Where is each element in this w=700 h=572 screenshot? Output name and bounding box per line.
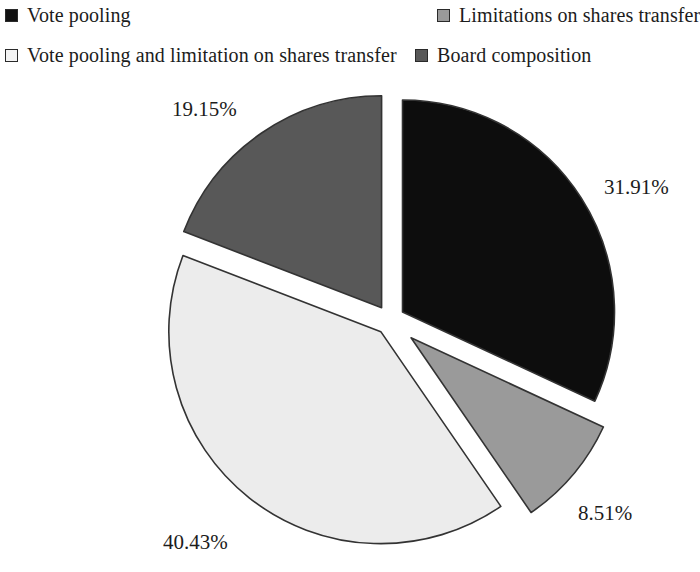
pie-plot-area <box>0 72 680 572</box>
legend-label-0: Vote pooling <box>27 5 131 25</box>
chart-legend: Vote pooling Limitations on shares trans… <box>0 0 680 80</box>
legend-swatch-icon-3 <box>415 49 428 62</box>
legend-item-vote-pooling-and-limitation[interactable]: Vote pooling and limitation on shares tr… <box>5 45 397 65</box>
pie-svg <box>0 72 680 572</box>
legend-label-2: Vote pooling and limitation on shares tr… <box>27 45 397 65</box>
legend-item-limitations-on-shares-transfer[interactable]: Limitations on shares transfer <box>437 5 700 25</box>
legend-item-board-composition[interactable]: Board composition <box>415 45 591 65</box>
legend-label-1: Limitations on shares transfer <box>459 5 700 25</box>
slice-value-label-vote-pooling: 31.91% <box>604 177 669 198</box>
legend-label-3: Board composition <box>437 45 591 65</box>
legend-swatch-icon-1 <box>437 9 450 22</box>
pie-slices-group <box>169 96 615 544</box>
legend-item-vote-pooling[interactable]: Vote pooling <box>5 5 131 25</box>
slice-value-label-limitations: 8.51% <box>578 503 632 524</box>
slice-value-label-vote-pooling-and-limitation: 40.43% <box>163 532 228 553</box>
legend-swatch-icon-2 <box>5 49 18 62</box>
slice-value-label-board-composition: 19.15% <box>172 99 237 120</box>
legend-swatch-icon-0 <box>5 9 18 22</box>
